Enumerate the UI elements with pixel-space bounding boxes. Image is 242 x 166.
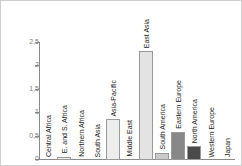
y-axis-tick: 2 (1, 65, 39, 66)
bar-slot: South America (154, 42, 170, 160)
bar-slot: Eastern Europe (170, 42, 186, 160)
bar-slot: North America (186, 42, 202, 160)
y-axis-tick-label: 2,5 (13, 38, 39, 45)
y-axis-tick-label: 1,5 (13, 85, 39, 92)
bar-chart-plot-area: 00,511,522,5 Central AfricaE. and S. Afr… (1, 1, 242, 166)
y-axis-tick-label: 2 (13, 61, 39, 68)
bar-category-label: Japan (223, 138, 230, 157)
bar-category-label: Central Africa (45, 115, 52, 157)
bar-category-label: Asia-Pacific (110, 80, 117, 117)
chart-screenshot: 00,511,522,5 Central AfricaE. and S. Afr… (0, 0, 242, 166)
bar-slot: Japan (219, 42, 235, 160)
y-axis-tick-label: 0,5 (13, 132, 39, 139)
bar-category-label: Eastern Europe (175, 80, 182, 129)
bar-slot: Northern Africa (73, 42, 89, 160)
bar-category-label: South Asia (93, 124, 100, 157)
bar-category-label: North America (191, 99, 198, 143)
bar-slot: East Asia (138, 42, 154, 160)
bar (106, 119, 120, 160)
bar-slot: E. and S. Africa (56, 42, 72, 160)
y-axis-tick: 2,5 (1, 42, 39, 43)
y-axis-tick: 0,5 (1, 136, 39, 137)
bar-category-label: South America (158, 104, 165, 150)
bar-slot: Middle East (121, 42, 137, 160)
bar-slot: Western Europe (203, 42, 219, 160)
y-axis-tick-label: 1 (13, 108, 39, 115)
bar (171, 132, 185, 160)
bar (187, 146, 201, 160)
bar-category-label: East Asia (142, 19, 149, 48)
bar-category-label: Northern Africa (77, 110, 84, 157)
bar (57, 157, 71, 160)
bar (155, 153, 169, 160)
bar-slot: Asia-Pacific (105, 42, 121, 160)
y-axis-tick: 0 (1, 159, 39, 160)
bar-category-label: E. and S. Africa (61, 105, 68, 153)
bar-series: Central AfricaE. and S. AfricaNorthern A… (40, 42, 235, 160)
bar-category-label: Western Europe (207, 107, 214, 157)
y-axis-tick: 1,5 (1, 89, 39, 90)
y-axis-tick: 1 (1, 112, 39, 113)
bar (139, 51, 153, 160)
y-axis-tick-label: 0 (13, 155, 39, 162)
bar-category-label: Middle East (126, 120, 133, 157)
bar-slot: South Asia (89, 42, 105, 160)
bar-slot: Central Africa (40, 42, 56, 160)
